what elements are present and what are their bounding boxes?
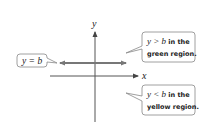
x-axis-label: x <box>141 70 147 81</box>
callout-green-region: y > b in the green region. <box>126 32 197 62</box>
green-region-line2: green region. <box>147 50 197 58</box>
x-axis: x <box>50 70 147 81</box>
y-axis-label: y <box>91 18 97 29</box>
yellow-region-line2: yellow region. <box>147 103 199 111</box>
inequality-diagram: y x y = b y > b in the green region. y <… <box>0 0 208 127</box>
yellow-region-line1: y < b in the <box>146 89 190 99</box>
callout-line-label: y = b <box>17 54 57 67</box>
line-label-text: y = b <box>21 56 42 66</box>
callout-yellow-region: y < b in the yellow region. <box>126 85 199 115</box>
y-axis: y <box>91 18 97 122</box>
green-region-line1: y > b in the <box>146 36 190 46</box>
